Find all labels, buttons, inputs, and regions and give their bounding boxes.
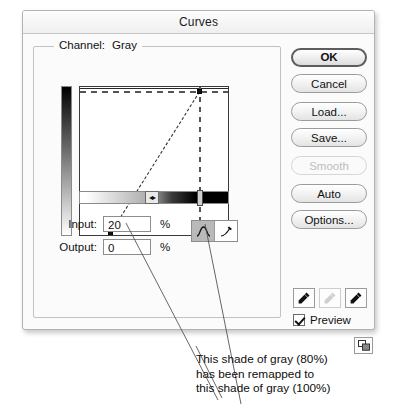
options-button[interactable]: Options... (291, 210, 367, 229)
curves-dialog: Curves Channel:Gray (22, 10, 375, 330)
tone-curve-line (110, 91, 200, 234)
control-point-highlight[interactable] (197, 89, 202, 94)
curve-tool-toggle (191, 220, 238, 242)
channel-legend: Channel:Gray (54, 39, 142, 51)
tone-curve-svg (80, 87, 229, 236)
smooth-button: Smooth (291, 156, 367, 175)
output-value-field[interactable]: 0 (103, 239, 151, 255)
curve-tool-icon[interactable] (192, 221, 214, 241)
dialog-titlebar: Curves (23, 11, 374, 34)
eyedropper-gray-icon[interactable] (319, 288, 341, 308)
channel-label: Channel: (59, 39, 105, 51)
output-field-row: Output: 0 % (45, 239, 170, 255)
caption-line-3: this shade of gray (100%) (196, 381, 400, 396)
output-label: Output: (45, 241, 97, 253)
output-unit: % (160, 241, 170, 253)
auto-button[interactable]: Auto (291, 184, 367, 203)
input-unit: % (160, 218, 170, 230)
preview-label: Preview (310, 314, 351, 326)
ramp-white-point-handle[interactable] (197, 190, 203, 206)
preview-row[interactable]: Preview (293, 314, 351, 326)
ok-button[interactable]: OK (291, 48, 367, 67)
input-gradient-ramp[interactable]: ◂▸ (79, 191, 229, 204)
caption-line-2: has been remapped to (196, 367, 400, 382)
eyedropper-black-icon[interactable] (293, 288, 315, 308)
load-button[interactable]: Load... (291, 102, 367, 121)
curve-plot[interactable] (79, 86, 229, 236)
input-label: Input: (45, 218, 97, 230)
output-gradient-strip (61, 86, 72, 236)
input-value-field[interactable]: 20 (103, 216, 151, 232)
cancel-button[interactable]: Cancel (291, 74, 367, 93)
pencil-tool-icon[interactable] (214, 221, 237, 241)
dialog-button-column: OK Cancel Load... Save... Smooth Auto Op… (291, 48, 367, 236)
ramp-midpoint-handle[interactable]: ◂▸ (145, 191, 159, 204)
dialog-body: Channel:Gray (23, 34, 374, 329)
save-button[interactable]: Save... (291, 128, 367, 147)
eyedropper-group (293, 288, 367, 308)
caption-line-1: This shade of gray (80%) (196, 352, 400, 367)
eyedropper-white-icon[interactable] (345, 288, 367, 308)
input-field-row: Input: 20 % (45, 216, 170, 232)
channel-value[interactable]: Gray (112, 39, 137, 51)
dialog-title: Curves (179, 15, 218, 29)
preview-checkbox[interactable] (293, 314, 305, 326)
annotation-caption: This shade of gray (80%) has been remapp… (196, 352, 400, 396)
